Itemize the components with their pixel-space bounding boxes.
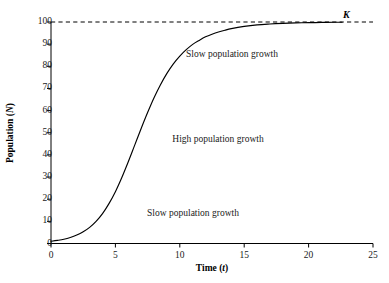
x-tick-label-25: 25 — [368, 251, 378, 261]
x-tick-label-10: 10 — [175, 251, 185, 261]
y-tick-label-80: 80 — [43, 62, 53, 72]
x-tick-label-0: 0 — [49, 251, 54, 261]
x-axis-title: Time (t) — [196, 264, 228, 274]
logistic-growth-chart: 100 90 80 70 60 50 40 30 20 10 0 0 5 10 … — [0, 0, 389, 283]
y-tick-label-60: 60 — [43, 106, 53, 116]
x-tick-label-5: 5 — [113, 251, 118, 261]
y-tick-label-50: 50 — [43, 128, 53, 138]
y-tick-label-10: 10 — [43, 217, 53, 227]
x-axis-title-text: Time — [196, 263, 217, 273]
y-tick-label-90: 90 — [43, 39, 53, 49]
x-axis-title-symbol: t — [222, 263, 225, 273]
annotation-slow-growth-lower: Slow population growth — [147, 209, 239, 219]
annotation-high-growth: High population growth — [172, 135, 263, 145]
y-axis-title-text: Population — [5, 119, 15, 163]
y-tick-label-30: 30 — [43, 172, 53, 182]
y-tick-label-0: 0 — [47, 239, 52, 249]
annotation-slow-growth-upper: Slow population growth — [186, 50, 278, 60]
y-axis-title-symbol: N — [5, 106, 15, 113]
y-tick-label-20: 20 — [43, 194, 53, 204]
x-tick-label-15: 15 — [239, 251, 249, 261]
y-tick-label-100: 100 — [38, 17, 52, 27]
carrying-capacity-label: K — [343, 10, 350, 20]
y-axis-title: Population (N) — [6, 103, 16, 163]
x-tick-label-20: 20 — [304, 251, 314, 261]
y-tick-label-40: 40 — [43, 150, 53, 160]
y-tick-label-70: 70 — [43, 84, 53, 94]
